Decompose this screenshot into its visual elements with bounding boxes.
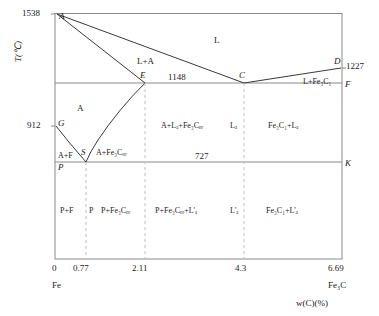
x-tick-211: 2.11 <box>132 264 147 273</box>
point-label-e: E <box>140 71 146 80</box>
point-label-c: C <box>239 71 245 80</box>
x-tick-43: 4.3 <box>235 264 246 273</box>
region-label-p-fe3cii: P+Fe₃Cₑₑ <box>101 207 130 215</box>
region-label-a-fe3cii: A+Fe₃Cₑₑ <box>96 149 127 157</box>
liquidus-curve-ac <box>57 14 244 83</box>
region-label-a: A <box>77 104 84 113</box>
point-label-a: A <box>59 12 65 21</box>
endmember-label-fe3c: Fe₃C <box>328 281 346 290</box>
x-axis-label: w(C)(%) <box>296 299 328 308</box>
x-tick-0: 0 <box>52 264 57 273</box>
y-tick-1227: 1227 <box>346 62 364 71</box>
phase-diagram-figure: T(℃) 1538 912 1227 1148 727 A E C D F G … <box>0 0 379 316</box>
point-label-p: P <box>58 163 64 172</box>
region-label-p: P <box>89 207 93 215</box>
iso-label-727: 727 <box>195 152 209 161</box>
region-label-l: L <box>214 36 220 45</box>
region-label-p-f: P+F <box>60 207 73 215</box>
solidus-curve-ae <box>57 14 145 83</box>
point-label-k: K <box>345 159 351 168</box>
region-label-a-ld-fe3cii: A+Lₐ+Fe₃Cₑₑ <box>161 122 203 130</box>
region-label-l-fe3ci: L+Fe₃C₁ <box>303 78 331 86</box>
endmember-label-fe: Fe <box>52 281 61 290</box>
y-axis-label: T(℃) <box>14 41 23 62</box>
point-label-s: S <box>81 148 86 157</box>
x-tick-077: 0.77 <box>73 264 89 273</box>
point-label-g: G <box>58 119 65 128</box>
point-label-d: D <box>334 57 341 66</box>
iso-label-1148: 1148 <box>168 73 186 82</box>
y-tick-912: 912 <box>27 121 41 130</box>
region-label-l-a: L+A <box>137 57 154 66</box>
region-label-ld: Lₐ <box>230 122 237 130</box>
region-label-ldp: L'ₐ <box>230 207 239 215</box>
region-label-fe3ci-ldp: Fe₃C₁+L'ₐ <box>266 207 298 215</box>
region-label-a-f: A+F <box>58 152 73 160</box>
region-label-p-fe3cii-ldp: P+Fe₃Cₑₑ+L'ₐ <box>155 207 197 215</box>
region-label-fe3ci-ld: Fe₃C₁+Lₐ <box>268 122 299 130</box>
point-label-f: F <box>345 80 351 89</box>
y-tick-1538: 1538 <box>22 9 40 18</box>
plot-frame <box>55 14 342 260</box>
x-tick-669: 6.69 <box>328 264 344 273</box>
